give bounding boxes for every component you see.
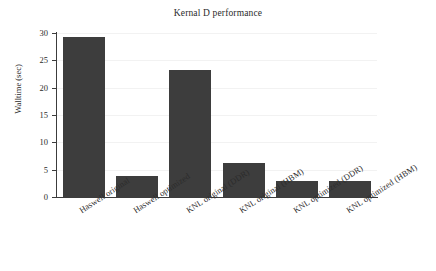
y-tick-mark [52, 88, 57, 89]
bar-chart-figure: Kernal D performance Walltime (sec) 0510… [0, 0, 436, 271]
plot-area [57, 33, 377, 197]
gridline [57, 170, 377, 171]
gridline [57, 33, 377, 34]
y-tick-label: 10 [20, 137, 48, 147]
chart-title: Kernal D performance [0, 8, 436, 18]
y-tick-mark [52, 170, 57, 171]
gridline [57, 60, 377, 61]
y-tick-mark [52, 33, 57, 34]
gridline [57, 142, 377, 143]
y-tick-label: 5 [20, 165, 48, 175]
y-tick-label: 25 [20, 55, 48, 65]
y-tick-mark [52, 197, 57, 198]
y-tick-label: 30 [20, 28, 48, 38]
gridline [57, 115, 377, 116]
y-tick-label: 0 [20, 192, 48, 202]
y-tick-mark [52, 60, 57, 61]
y-tick-label: 15 [20, 110, 48, 120]
y-tick-mark [52, 115, 57, 116]
bar [63, 37, 105, 197]
y-tick-mark [52, 142, 57, 143]
gridline [57, 88, 377, 89]
y-tick-label: 20 [20, 83, 48, 93]
